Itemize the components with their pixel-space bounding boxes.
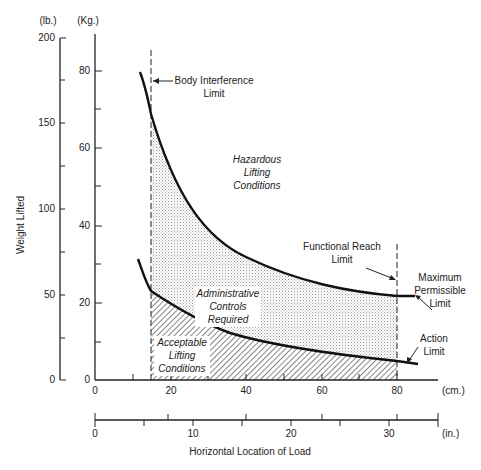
functional-reach-arrow [366,268,394,279]
admin-label-3: Required [208,314,249,325]
in-unit-label: (in.) [442,428,459,439]
cm-tick-60: 60 [316,385,328,396]
accept-label: Acceptable [156,337,207,348]
kg-axis: 80 60 40 20 0 (Kg.) [77,15,102,385]
accept-label-3: Conditions [158,363,205,374]
kg-tick-80: 80 [79,65,91,76]
mpl-label: Maximum [418,272,461,283]
kg-tick-40: 40 [79,220,91,231]
al-label: Action [420,333,448,344]
kg-unit-label: (Kg.) [77,15,99,26]
cm-tick-20: 20 [165,385,177,396]
x-axis-title: Horizontal Location of Load [189,446,311,457]
admin-label: Administrative [196,288,260,299]
cm-tick-40: 40 [240,385,252,396]
kg-tick-20: 20 [79,297,91,308]
y-axis-title: Weight Lifted [15,196,26,254]
arrow-head-icon [389,275,396,280]
accept-label-2: Lifting [169,350,196,361]
in-tick-10: 10 [187,428,199,439]
lb-tick-0: 0 [49,374,55,385]
lb-tick-50: 50 [44,289,56,300]
mpl-label-2: Permissible [414,285,466,296]
hazardous-label: Hazardous [233,154,281,165]
body-interference-label-2: Limit [203,88,224,99]
inch-axis: 0 10 20 30 (in.) [92,413,459,439]
admin-label-2: Controls [209,301,246,312]
kg-tick-60: 60 [79,142,91,153]
in-tick-0: 0 [92,428,98,439]
lifting-guideline-chart: 200 150 100 50 0 (lb.) Weight Lifted 80 … [0,0,481,470]
functional-reach-label: Functional Reach [303,241,381,252]
lb-tick-150: 150 [38,117,55,128]
cm-unit-label: (cm.) [442,385,465,396]
al-label-2: Limit [423,346,444,357]
in-tick-20: 20 [285,428,297,439]
functional-reach-label-2: Limit [331,254,352,265]
lb-tick-200: 200 [38,32,55,43]
cm-tick-0: 0 [92,385,98,396]
arrow-head-icon [153,78,159,84]
hazardous-label-2: Lifting [244,167,271,178]
kg-tick-0: 0 [84,374,90,385]
lb-axis: 200 150 100 50 0 (lb.) [38,15,66,385]
cm-tick-80: 80 [391,385,403,396]
lb-unit-label: (lb.) [39,15,56,26]
mpl-label-3: Limit [429,298,450,309]
body-interference-label: Body Interference [175,75,254,86]
hazardous-label-3: Conditions [233,180,280,191]
in-tick-30: 30 [383,428,395,439]
lb-tick-100: 100 [38,203,55,214]
